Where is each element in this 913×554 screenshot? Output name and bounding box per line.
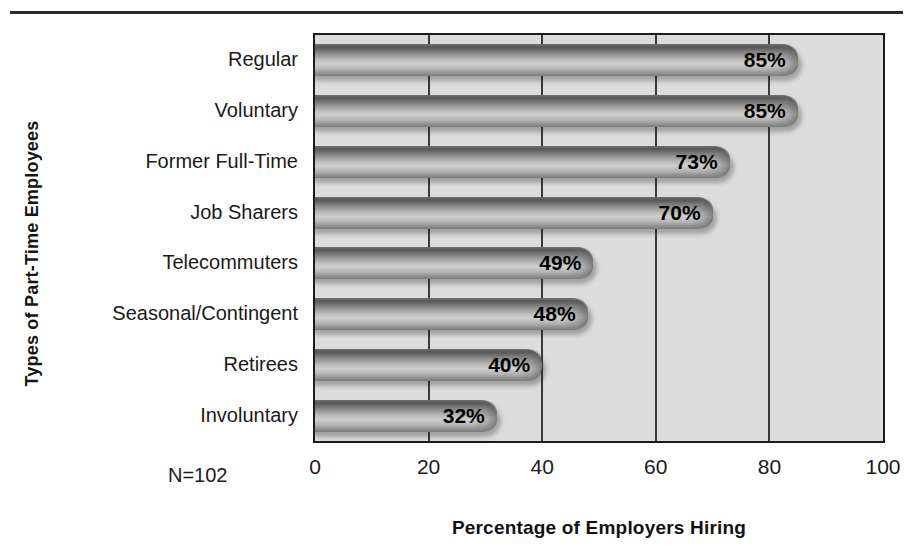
y-tick-label-7: Involuntary — [40, 405, 298, 425]
x-axis-tick-labels: 0 20 40 60 80 100 — [0, 455, 913, 485]
x-tick-label-0: 0 — [309, 455, 321, 479]
bar-fill — [313, 95, 798, 127]
y-tick-label-1: Voluntary — [40, 100, 298, 120]
bar-row: 70% — [315, 197, 883, 229]
y-tick-label-3: Job Sharers — [40, 202, 298, 222]
y-tick-label-2: Former Full-Time — [40, 151, 298, 171]
bar-value-label: 49% — [533, 251, 581, 275]
bar-value-label: 85% — [738, 99, 786, 123]
bar-value-label: 70% — [653, 201, 701, 225]
y-tick-label-6: Retirees — [40, 354, 298, 374]
plot-inner: 85%85%73%70%49%48%40%32% — [315, 35, 883, 441]
x-tick-label-5: 100 — [865, 455, 900, 479]
bar-row: 48% — [315, 298, 883, 330]
chart-figure: Types of Part-Time Employees Regular Vol… — [0, 0, 913, 554]
x-tick-label-3: 60 — [644, 455, 667, 479]
x-axis-title: Percentage of Employers Hiring — [313, 517, 885, 539]
top-divider-rule — [10, 11, 903, 14]
y-tick-label-4: Telecommuters — [40, 252, 298, 272]
bar-value-label: 85% — [738, 48, 786, 72]
x-tick-label-4: 80 — [758, 455, 781, 479]
x-tick-label-2: 40 — [531, 455, 554, 479]
plot-area: 85%85%73%70%49%48%40%32% — [313, 33, 885, 443]
bar — [313, 95, 798, 127]
bar-row: 85% — [315, 44, 883, 76]
bar-fill — [313, 146, 730, 178]
bar-row: 32% — [315, 400, 883, 432]
bar — [313, 146, 730, 178]
x-tick-label-1: 20 — [417, 455, 440, 479]
bar-fill — [313, 44, 798, 76]
bar-value-label: 32% — [437, 404, 485, 428]
bar-row: 85% — [315, 95, 883, 127]
bar-row: 73% — [315, 146, 883, 178]
y-tick-label-0: Regular — [40, 49, 298, 69]
bar-row: 40% — [315, 349, 883, 381]
y-tick-label-5: Seasonal/Contingent — [40, 303, 298, 323]
y-axis-tick-labels: Regular Voluntary Former Full-Time Job S… — [40, 34, 298, 443]
bar-value-label: 48% — [528, 302, 576, 326]
bar — [313, 44, 798, 76]
bar-value-label: 73% — [670, 150, 718, 174]
bar-value-label: 40% — [482, 353, 530, 377]
bar-row: 49% — [315, 247, 883, 279]
